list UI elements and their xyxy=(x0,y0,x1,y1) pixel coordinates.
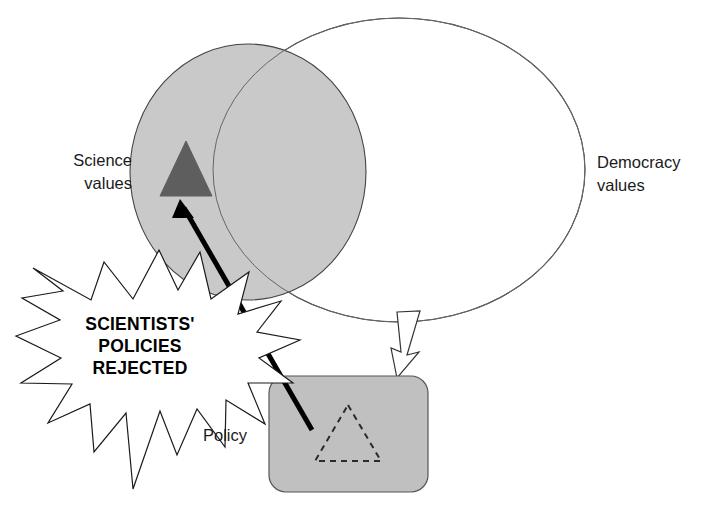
diagram-canvas: SCIENTISTS' POLICIES REJECTED Science va… xyxy=(0,0,720,515)
science-values-circle[interactable] xyxy=(130,44,366,300)
science-values-label-line-1: Science xyxy=(73,151,132,169)
science-values-label-line-2: values xyxy=(84,174,132,192)
venn-diagram-svg: SCIENTISTS' POLICIES REJECTED Science va… xyxy=(0,0,720,515)
burst-line-3: REJECTED xyxy=(93,358,188,378)
policy-label: Policy xyxy=(203,426,248,444)
burst-line-2: POLICIES xyxy=(98,336,181,356)
democracy-to-policy-block-arrow xyxy=(391,311,420,378)
burst-line-1: SCIENTISTS' xyxy=(85,314,194,334)
democracy-values-label-line-1: Democracy xyxy=(597,153,681,171)
democracy-values-label-line-2: values xyxy=(597,176,645,194)
